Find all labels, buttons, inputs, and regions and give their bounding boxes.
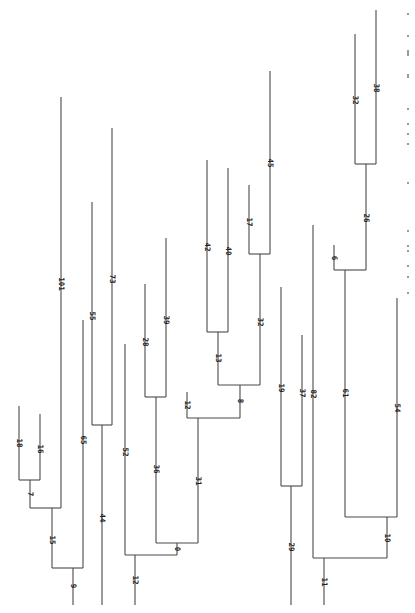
branch-label: 38	[372, 83, 381, 93]
caption-glyph	[407, 76, 409, 78]
branch-label: 82	[309, 389, 318, 398]
caption-glyph	[407, 230, 409, 232]
branch-label: 9	[69, 584, 78, 589]
branch-label: 61	[341, 388, 350, 398]
branch-label: 11	[320, 577, 329, 587]
caption-glyph	[407, 133, 409, 135]
branch-label: 19	[277, 383, 286, 393]
branch-label: 101	[57, 277, 66, 291]
phylogenetic-tree: 1816715910165557344522839361231012424013…	[0, 0, 415, 613]
caption-glyph	[407, 108, 409, 110]
branch-label: 45	[266, 158, 275, 167]
branch-label: 36	[152, 464, 161, 474]
caption-glyph	[407, 276, 409, 278]
branch-label: 37	[298, 388, 307, 397]
branch-label: 73	[108, 274, 117, 284]
branch-label: 52	[121, 447, 130, 456]
branch-label: 17	[245, 217, 254, 226]
tree-branches	[19, 10, 397, 605]
branch-label: 32	[256, 317, 265, 326]
caption-glyph	[407, 54, 409, 56]
figure-caption-illegible	[403, 0, 413, 300]
caption-glyph	[407, 292, 409, 294]
branch-label: 16	[36, 444, 45, 454]
caption-glyph	[407, 182, 409, 184]
branch-label: 55	[88, 311, 97, 320]
branch-label: 15	[48, 535, 57, 544]
branch-label: 13	[214, 353, 223, 363]
branch-label: 18	[15, 438, 24, 448]
branch-label: 12	[183, 400, 192, 409]
branch-length-labels: 1816715910165557344522839361231012424013…	[15, 83, 402, 588]
caption-glyph	[407, 123, 409, 125]
branch-label: 65	[79, 435, 88, 444]
caption-glyph	[407, 13, 409, 15]
branch-label: 0	[173, 547, 182, 552]
caption-glyph	[407, 250, 409, 252]
branch-label: 12	[131, 575, 140, 584]
branch-label: 29	[287, 542, 296, 552]
caption-glyph	[407, 245, 409, 247]
caption-glyph	[407, 35, 409, 37]
branch-label: 6	[330, 256, 339, 261]
branch-label: 10	[383, 533, 392, 543]
branch-label: 28	[141, 337, 150, 347]
caption-glyph	[407, 265, 409, 267]
branch-label: 42	[203, 242, 212, 251]
branch-label: 7	[26, 492, 35, 497]
branch-label: 8	[236, 399, 245, 404]
branch-label: 31	[194, 476, 203, 486]
branch-label: 54	[393, 403, 402, 413]
branch-label: 32	[351, 95, 360, 104]
branch-label: 39	[162, 315, 171, 325]
caption-glyph	[407, 143, 409, 145]
branch-label: 26	[362, 213, 371, 223]
branch-label: 40	[224, 246, 233, 256]
branch-label: 44	[98, 513, 107, 523]
